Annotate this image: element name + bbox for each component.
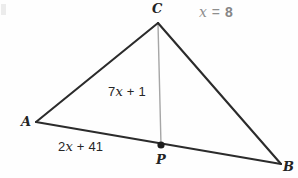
geometry-figure: C A B P 7x + 1 2x + 41 x = 8: [0, 0, 298, 178]
vertex-label-a: A: [21, 115, 31, 128]
point-p-marker: [157, 141, 164, 148]
vertex-label-p: P: [156, 153, 166, 166]
segment-cb: [158, 23, 281, 164]
cevian-length-label: 7x + 1: [108, 85, 146, 98]
answer-variable: x: [199, 4, 207, 20]
segment-ac: [36, 23, 158, 122]
vertex-label-b: B: [283, 160, 294, 173]
triangle-svg: [0, 0, 298, 178]
cevian-variable: x: [115, 84, 123, 99]
answer-equals: =: [212, 4, 221, 20]
base-length-label: 2x + 41: [58, 140, 103, 153]
cevian-operator: +: [127, 84, 135, 99]
base-constant: 41: [88, 139, 103, 154]
answer-annotation: x = 8: [199, 5, 233, 19]
segment-cp: [158, 24, 161, 145]
vertex-label-c: C: [152, 2, 162, 15]
base-variable: x: [65, 139, 73, 154]
answer-value: 8: [225, 4, 233, 20]
base-operator: +: [77, 139, 85, 154]
cevian-constant: 1: [138, 84, 145, 99]
